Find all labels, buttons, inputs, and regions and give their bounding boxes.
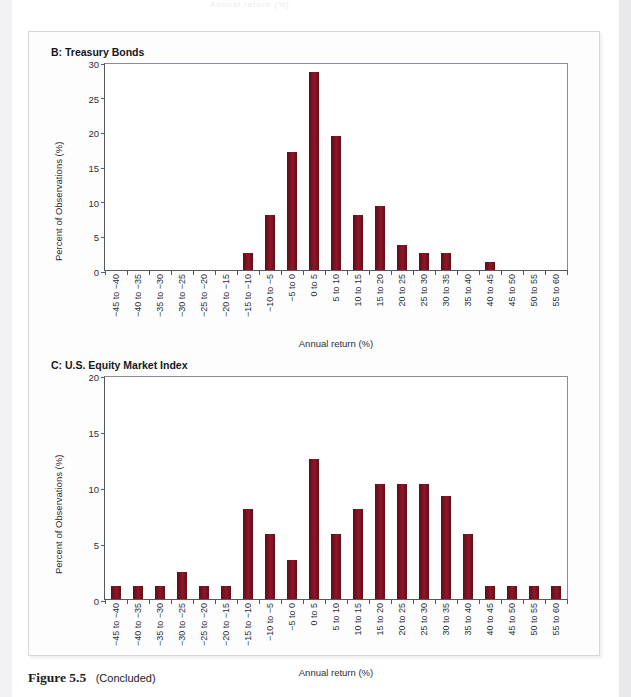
bar bbox=[463, 534, 473, 599]
bar bbox=[133, 586, 143, 599]
bar bbox=[419, 484, 429, 599]
x-label-slot: −35 to −30 bbox=[149, 270, 171, 332]
x-tick-label: 35 to 40 bbox=[463, 603, 473, 636]
x-tick-label: −40 to −35 bbox=[133, 603, 143, 646]
figure-caption-suffix: (Concluded) bbox=[96, 672, 156, 684]
x-tick-label: 30 to 35 bbox=[441, 274, 451, 307]
bar bbox=[529, 586, 539, 599]
y-tick-label: 15 bbox=[88, 428, 105, 439]
x-tick-label: −5 to 0 bbox=[287, 603, 297, 631]
x-tick-label: 30 to 35 bbox=[441, 603, 451, 636]
x-tick-label: 20 to 25 bbox=[397, 274, 407, 307]
bar-slot bbox=[347, 377, 369, 599]
x-label-slot: 0 to 5 bbox=[303, 270, 325, 332]
x-label-slot: 5 to 10 bbox=[325, 270, 347, 332]
chart-b-x-axis-label: Annual return (%) bbox=[104, 338, 568, 349]
x-tick-label: 5 to 10 bbox=[331, 603, 341, 631]
bar bbox=[309, 72, 319, 270]
x-label-slot: 30 to 35 bbox=[435, 599, 457, 661]
x-tick-label: 50 to 55 bbox=[529, 274, 539, 307]
x-tick-label: −5 to 0 bbox=[287, 274, 297, 302]
bar-slot bbox=[237, 377, 259, 599]
x-tick-label: 55 to 60 bbox=[551, 274, 561, 307]
bar-slot bbox=[259, 64, 281, 270]
x-label-slot: −5 to 0 bbox=[281, 270, 303, 332]
x-label-slot: 15 to 20 bbox=[369, 599, 391, 661]
bar-slot bbox=[523, 377, 545, 599]
x-tick-label: −30 to −25 bbox=[177, 274, 187, 317]
bar-slot bbox=[369, 64, 391, 270]
bar-slot bbox=[237, 64, 259, 270]
x-label-slot: −40 to −35 bbox=[127, 599, 149, 661]
x-tick-label: −15 to −10 bbox=[243, 274, 253, 317]
chart-c-title: C: U.S. Equity Market Index bbox=[51, 359, 188, 371]
chart-b-y-axis-label: Percent of Observations (%) bbox=[53, 142, 64, 261]
x-tick-label: −20 to −15 bbox=[221, 603, 231, 646]
bar bbox=[375, 484, 385, 599]
x-tick-label: 45 to 50 bbox=[507, 603, 517, 636]
x-label-slot: −15 to −10 bbox=[237, 599, 259, 661]
bar-slot bbox=[479, 64, 501, 270]
bar-slot bbox=[479, 377, 501, 599]
bar-slot bbox=[281, 377, 303, 599]
x-label-slot: 35 to 40 bbox=[457, 270, 479, 332]
bar bbox=[199, 586, 209, 599]
bar bbox=[441, 253, 451, 270]
x-label-slot: 40 to 45 bbox=[479, 599, 501, 661]
bar bbox=[287, 152, 297, 270]
bar-slot bbox=[149, 64, 171, 270]
x-tick-label: 0 to 5 bbox=[309, 603, 319, 626]
x-label-slot: 30 to 35 bbox=[435, 270, 457, 332]
x-label-slot: 55 to 60 bbox=[545, 599, 567, 661]
x-tick-label: 40 to 45 bbox=[485, 274, 495, 307]
chart-b-treasury-bonds: B: Treasury Bonds Percent of Observation… bbox=[51, 46, 579, 346]
x-tick-label: 5 to 10 bbox=[331, 274, 341, 302]
bar bbox=[353, 509, 363, 599]
chart-b-bars bbox=[105, 64, 567, 270]
x-tick-label: −25 to −20 bbox=[199, 274, 209, 317]
x-tick-label: −40 to −35 bbox=[133, 274, 143, 317]
bar-slot bbox=[457, 377, 479, 599]
x-tick-label: 50 to 55 bbox=[529, 603, 539, 636]
chart-c-us-equity-market-index: C: U.S. Equity Market Index Percent of O… bbox=[51, 359, 579, 659]
bar-slot bbox=[501, 64, 523, 270]
x-tick-label: 20 to 25 bbox=[397, 603, 407, 636]
x-tick-label: 40 to 45 bbox=[485, 603, 495, 636]
bar-slot bbox=[347, 64, 369, 270]
chart-c-y-axis-label: Percent of Observations (%) bbox=[53, 455, 64, 574]
bar bbox=[485, 262, 495, 270]
x-tick-label: −25 to −20 bbox=[199, 603, 209, 646]
bar bbox=[331, 136, 341, 271]
bar-slot bbox=[325, 64, 347, 270]
x-label-slot: −30 to −25 bbox=[171, 270, 193, 332]
chart-b-title: B: Treasury Bonds bbox=[51, 46, 144, 58]
x-tick-label: −45 to −40 bbox=[111, 603, 121, 646]
x-tick-label: 45 to 50 bbox=[507, 274, 517, 307]
x-label-slot: 15 to 20 bbox=[369, 270, 391, 332]
bar-slot bbox=[193, 64, 215, 270]
bar-slot bbox=[391, 64, 413, 270]
bar-slot bbox=[281, 64, 303, 270]
bar-slot bbox=[171, 64, 193, 270]
y-tick-label: 0 bbox=[94, 267, 105, 278]
figure-caption: Figure 5.5 (Concluded) bbox=[28, 668, 448, 690]
chart-b-x-tick-labels: −45 to −40−40 to −35−35 to −30−30 to −25… bbox=[105, 270, 567, 332]
x-tick-label: −20 to −15 bbox=[221, 274, 231, 317]
x-label-slot: 50 to 55 bbox=[523, 599, 545, 661]
y-tick-label: 30 bbox=[88, 59, 105, 70]
x-label-slot: 45 to 50 bbox=[501, 599, 523, 661]
x-tick-label: 35 to 40 bbox=[463, 274, 473, 307]
bar-slot bbox=[413, 377, 435, 599]
y-tick-label: 15 bbox=[88, 163, 105, 174]
bar-slot bbox=[435, 377, 457, 599]
bar-slot bbox=[435, 64, 457, 270]
x-label-slot: 10 to 15 bbox=[347, 270, 369, 332]
bar bbox=[397, 245, 407, 270]
chart-c-bars bbox=[105, 377, 567, 599]
bar bbox=[397, 484, 407, 599]
x-tick-label: 10 to 15 bbox=[353, 603, 363, 636]
bar bbox=[441, 496, 451, 599]
x-label-slot: −10 to −5 bbox=[259, 599, 281, 661]
bar-slot bbox=[545, 377, 567, 599]
bar bbox=[309, 459, 319, 599]
